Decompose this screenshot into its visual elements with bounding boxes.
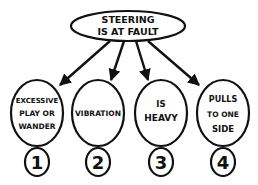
child-node-4: PULLS TO ONE SIDE 4: [197, 80, 249, 176]
child-1-line-2: PLAY OR: [19, 109, 55, 118]
child-1-line-1: EXCESSIVE: [16, 97, 59, 105]
number-1: 1: [31, 152, 44, 173]
arrow-to-node-1: [60, 41, 110, 85]
number-3: 3: [155, 152, 168, 173]
arrows: [60, 41, 199, 85]
child-1-line-3: WANDER: [18, 122, 55, 131]
child-node-1: EXCESSIVE PLAY OR WANDER 1: [11, 80, 63, 176]
child-2-line-1: VIBRATION: [75, 109, 121, 118]
arrow-to-node-2: [111, 41, 124, 80]
arrow-to-node-4: [148, 41, 199, 85]
steering-fault-diagram: STEERING IS AT FAULT EXCESSIVE PLAY OR W…: [0, 0, 258, 185]
child-4-line-2: TO ONE: [207, 110, 239, 119]
child-3-line-2: HEAVY: [144, 113, 178, 123]
root-label-line-1: STEERING: [102, 14, 155, 25]
root-label-line-2: IS AT FAULT: [97, 26, 159, 37]
number-4: 4: [217, 152, 230, 173]
child-4-line-3: SIDE: [212, 124, 234, 134]
root-node: STEERING IS AT FAULT: [71, 11, 185, 41]
child-4-line-1: PULLS: [209, 95, 238, 104]
arrow-to-node-3: [136, 41, 148, 80]
child-3-line-1: IS: [156, 99, 165, 109]
number-2: 2: [92, 152, 105, 173]
child-node-2: VIBRATION 2: [72, 80, 124, 176]
child-node-3: IS HEAVY 3: [135, 80, 187, 176]
